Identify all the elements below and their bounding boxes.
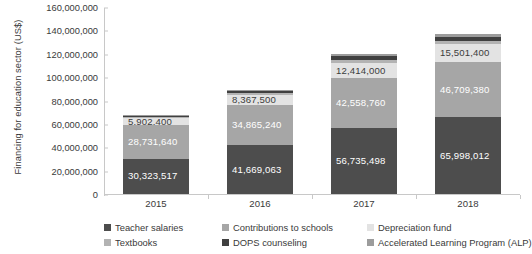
y-tick-mark [104,148,108,149]
legend-label: Accelerated Learning Program (ALP) [378,237,532,248]
legend-swatch-icon [222,224,229,231]
plot-area: 020,000,00040,000,00060,000,00080,000,00… [104,8,520,195]
segment-value-label: 42,558,760 [336,98,386,108]
y-tick-mark [104,101,108,102]
legend-swatch-icon [367,224,374,231]
legend-label: Depreciation fund [378,222,452,233]
y-tick-label: 120,000,000 [34,50,98,60]
bar-2018[interactable]: 65,998,01246,709,38015,501,400 [435,34,501,194]
legend-label: DOPS counseling [233,237,307,248]
segment-value-label: 65,998,012 [440,151,490,161]
bar-segment[interactable]: 56,735,498 [331,128,397,194]
legend-swatch-icon [367,239,374,246]
x-tick-label-2017: 2017 [319,198,409,209]
legend-label: Textbooks [115,237,157,248]
x-tick-mark [416,195,417,199]
bar-segment[interactable]: 12,414,000 [331,63,397,78]
y-axis-line [104,8,105,196]
bar-segment[interactable]: 30,323,517 [123,159,189,194]
segment-value-label: 30,323,517 [128,171,178,181]
segment-value-label: 5,902,400 [128,118,172,125]
y-tick-label: 140,000,000 [34,26,98,36]
y-tick-label: 0 [34,190,98,200]
legend-item-1[interactable]: Contributions to schools [222,222,367,233]
y-tick-mark [104,171,108,172]
y-tick-label: 40,000,000 [34,143,98,153]
x-tick-label-2015: 2015 [111,198,201,209]
segment-value-label: 28,731,640 [128,137,178,147]
bar-segment[interactable]: 46,709,380 [435,62,501,117]
y-tick-mark [104,8,108,9]
segment-value-label: 12,414,000 [336,66,386,76]
x-tick-label-2016: 2016 [215,198,305,209]
legend-swatch-icon [222,239,229,246]
legend-label: Teacher salaries [115,222,183,233]
legend-item-5[interactable]: Accelerated Learning Program (ALP) [367,237,524,248]
x-tick-mark [520,195,521,199]
bar-segment[interactable]: 34,865,240 [227,105,293,146]
y-tick-mark [104,195,108,196]
legend-swatch-icon [104,239,111,246]
y-tick-label: 60,000,000 [34,120,98,130]
bar-2016[interactable]: 41,669,06334,865,2408,367,500 [227,90,293,194]
segment-value-label: 46,709,380 [440,85,490,95]
legend-item-0[interactable]: Teacher salaries [104,222,222,233]
chart-legend: Teacher salariesContributions to schools… [104,220,524,250]
legend-label: Contributions to schools [233,222,333,233]
y-tick-label: 100,000,000 [34,73,98,83]
legend-item-4[interactable]: DOPS counseling [222,237,367,248]
bar-segment[interactable]: 8,367,500 [227,95,293,105]
x-tick-mark [312,195,313,199]
legend-item-2[interactable]: Depreciation fund [367,222,524,233]
legend-swatch-icon [104,224,111,231]
bar-segment[interactable]: 15,501,400 [435,44,501,62]
legend-item-3[interactable]: Textbooks [104,237,222,248]
y-tick-label: 80,000,000 [34,97,98,107]
y-tick-label: 20,000,000 [34,167,98,177]
bar-segment[interactable]: 65,998,012 [435,117,501,194]
segment-value-label: 56,735,498 [336,156,386,166]
y-tick-mark [104,78,108,79]
bar-2017[interactable]: 56,735,49842,558,76012,414,000 [331,54,397,194]
bar-segment[interactable]: 41,669,063 [227,145,293,194]
bar-segment[interactable]: 28,731,640 [123,125,189,159]
x-tick-label-2018: 2018 [423,198,513,209]
y-tick-mark [104,31,108,32]
y-axis-title: Financing for education sector (US$) [13,0,23,197]
y-tick-mark [104,124,108,125]
bar-segment[interactable]: 42,558,760 [331,78,397,128]
y-tick-label: 160,000,000 [34,3,98,13]
segment-value-label: 8,367,500 [232,95,276,105]
y-tick-mark [104,54,108,55]
segment-value-label: 15,501,400 [440,48,490,58]
segment-value-label: 34,865,240 [232,120,282,130]
x-tick-mark [208,195,209,199]
bar-segment[interactable]: 5,902,400 [123,118,189,125]
bar-2015[interactable]: 30,323,51728,731,6405,902,400 [123,115,189,195]
segment-value-label: 41,669,063 [232,165,282,175]
